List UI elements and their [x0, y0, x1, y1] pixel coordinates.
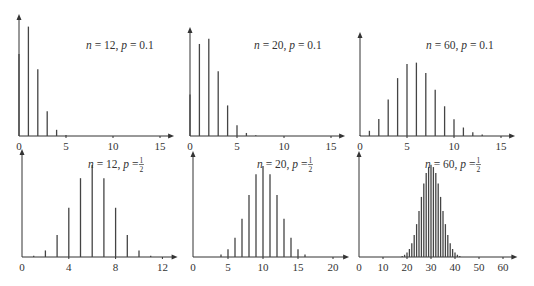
- x-axis-arrow-icon: [172, 255, 178, 260]
- x-tick-label: 20: [402, 261, 414, 273]
- y-axis-arrow-icon: [20, 149, 25, 155]
- panel-n20-p0.1: 051015n = 20, p = 0.1: [178, 0, 358, 152]
- panel-n60-p0.1: 051015n = 60, p = 0.1: [354, 0, 534, 152]
- panel-label: n = 12, p =: [88, 158, 138, 171]
- panel-label: n = 12, p = 0.1: [86, 39, 154, 52]
- x-tick-label: 40: [450, 261, 462, 273]
- y-axis-arrow-icon: [358, 32, 363, 38]
- x-tick-label: 10: [258, 261, 270, 273]
- panel-label: n = 20, p =: [257, 158, 307, 171]
- x-tick-label: 12: [157, 261, 168, 273]
- chart-n20-p-half: 05101520n = 20, p = 12: [178, 140, 358, 286]
- chart-n12-p-half: 04812n = 12, p = 12: [0, 140, 180, 286]
- x-axis-arrow-icon: [343, 255, 349, 260]
- x-tick-label: 50: [474, 261, 486, 273]
- fraction-denominator: 2: [309, 165, 313, 174]
- x-tick-label: 0: [356, 261, 362, 273]
- panel-n12-p0.1: 051015n = 12, p = 0.1: [0, 0, 180, 152]
- panel-n20-p-half: 05101520n = 20, p = 12: [178, 140, 358, 286]
- x-tick-label: 5: [225, 261, 231, 273]
- x-tick-label: 0: [19, 261, 25, 273]
- x-axis-arrow-icon: [168, 134, 174, 139]
- x-tick-label: 20: [328, 261, 340, 273]
- x-tick-label: 15: [293, 261, 305, 273]
- y-axis-arrow-icon: [191, 151, 196, 157]
- x-tick-label: 60: [498, 261, 510, 273]
- x-tick-label: 4: [66, 261, 72, 273]
- panel-n60-p-half: 0102030405060n = 60, p = 12: [354, 140, 534, 286]
- y-axis-arrow-icon: [357, 151, 362, 157]
- y-axis-arrow-icon: [17, 14, 22, 20]
- x-axis-arrow-icon: [511, 255, 517, 260]
- chart-n60-p-half: 0102030405060n = 60, p = 12: [354, 140, 534, 286]
- x-tick-label: 8: [113, 261, 119, 273]
- fraction-denominator: 2: [140, 165, 144, 174]
- y-axis-arrow-icon: [188, 27, 193, 33]
- chart-n20-p0.1: 051015n = 20, p = 0.1: [178, 0, 358, 152]
- chart-n12-p0.1: 051015n = 12, p = 0.1: [0, 0, 180, 152]
- x-tick-label: 30: [426, 261, 438, 273]
- fraction-denominator: 2: [477, 165, 481, 174]
- x-tick-label: 10: [378, 261, 390, 273]
- panel-label: n = 60, p = 0.1: [426, 39, 494, 52]
- x-tick-label: 0: [190, 261, 196, 273]
- x-axis-arrow-icon: [339, 134, 345, 139]
- panel-label: n = 60, p =: [425, 158, 475, 171]
- chart-n60-p0.1: 051015n = 60, p = 0.1: [354, 0, 534, 152]
- x-axis-arrow-icon: [509, 134, 515, 139]
- panel-label: n = 20, p = 0.1: [254, 39, 322, 52]
- binomial-distribution-figure: 051015n = 12, p = 0.1 051015n = 20, p = …: [0, 0, 534, 286]
- panel-n12-p-half: 04812n = 12, p = 12: [0, 140, 180, 286]
